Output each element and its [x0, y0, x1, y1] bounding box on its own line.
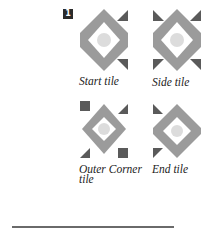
end-tile-label: End tile	[152, 164, 188, 174]
bottom-right-triangle-icon	[117, 59, 128, 70]
top-right-triangle-icon	[117, 10, 128, 21]
side-tile-diagram	[151, 9, 203, 71]
top-right-triangle-icon	[190, 10, 201, 21]
top-right-triangle-icon	[118, 104, 128, 114]
start-tile-label: Start tile	[79, 76, 119, 86]
bottom-left-triangle-icon	[80, 148, 90, 158]
outer-corner-tile-diagram	[78, 100, 130, 162]
bottom-left-triangle-icon	[153, 59, 164, 70]
outer-corner-tile-label: Outer Corner tile	[79, 164, 142, 184]
side-tile-label: Side tile	[152, 77, 189, 87]
bottom-left-triangle-icon	[153, 148, 163, 158]
center-circle-icon	[97, 33, 111, 47]
outer-corner-label-line2: tile	[79, 174, 142, 184]
top-left-triangle-icon	[153, 104, 163, 114]
start-tile-diagram	[78, 9, 130, 71]
bottom-right-square-icon	[118, 148, 128, 158]
top-left-triangle-icon	[153, 10, 164, 21]
top-left-square-icon	[80, 101, 90, 111]
step-number-badge: 1	[63, 9, 73, 19]
end-tile-diagram	[151, 100, 203, 162]
bottom-divider	[12, 226, 174, 228]
bottom-right-triangle-icon	[190, 59, 201, 70]
